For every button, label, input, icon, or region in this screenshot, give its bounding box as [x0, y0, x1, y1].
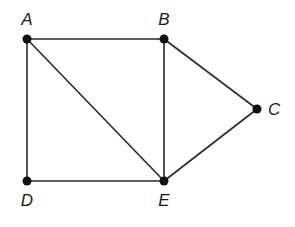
edge-b-c: [164, 39, 257, 109]
labels-group: ABCDE: [20, 10, 281, 210]
node-a: [23, 35, 32, 44]
node-label-d: D: [21, 191, 33, 210]
node-e: [160, 177, 169, 186]
nodes-group: [23, 35, 262, 186]
edge-c-e: [164, 109, 257, 181]
node-label-e: E: [158, 191, 170, 210]
node-d: [23, 177, 32, 186]
edges-group: [27, 39, 257, 181]
node-label-a: A: [20, 10, 32, 29]
edge-a-e: [27, 39, 164, 181]
node-label-c: C: [268, 100, 281, 119]
node-b: [160, 35, 169, 44]
graph-diagram: ABCDE: [0, 0, 295, 227]
node-label-b: B: [158, 10, 169, 29]
node-c: [253, 105, 262, 114]
